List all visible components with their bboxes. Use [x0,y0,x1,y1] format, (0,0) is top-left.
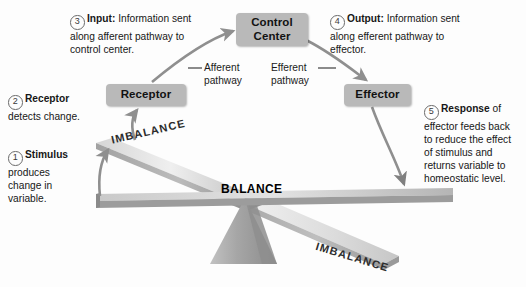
label-afferent-pathway: Afferent pathway [204,62,242,88]
step-5-lead: Response [441,103,490,114]
afferent-line-2: pathway [204,75,242,88]
label-efferent-pathway: Efferent pathway [271,62,309,88]
callout-step-1: 1Stimulus produces change in variable. [8,148,86,205]
step-1-number: 1 [8,151,23,166]
efferent-line-1: Efferent [271,62,309,75]
callout-step-2: 2Receptor detects change. [8,92,104,123]
step-1-body: produces change in variable. [8,167,52,204]
step-2-number: 2 [8,95,23,110]
node-effector[interactable]: Effector [344,84,411,106]
step-3-lead: Input: [87,13,115,24]
step-4-lead: Output: [347,13,384,24]
step-1-lead: Stimulus [25,149,68,160]
node-control-center[interactable]: Control Center [236,13,308,46]
callout-step-3: 3Input: Information sent along afferent … [70,12,200,56]
node-receptor[interactable]: Receptor [106,84,186,106]
label-balance: BALANCE [221,182,282,196]
response-arrow [372,107,404,184]
step-5-number: 5 [424,105,439,120]
step-2-body: detects change. [8,111,80,122]
step-2-lead: Receptor [25,93,69,104]
afferent-line-1: Afferent [204,62,242,75]
efferent-line-2: pathway [271,75,309,88]
stimulus-arrow [99,150,108,196]
homeostasis-diagram: Control Center Receptor Effector Afferen… [0,0,526,287]
step-3-number: 3 [70,15,85,30]
callout-step-4: 4Output: Information sent along efferent… [330,12,465,56]
callout-step-5: 5Response of effector feeds back to redu… [424,102,520,185]
step-4-number: 4 [330,15,345,30]
